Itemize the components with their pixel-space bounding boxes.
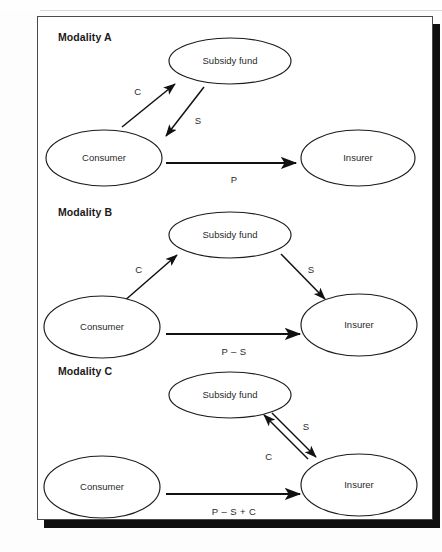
edge-label-a-c: C <box>134 86 141 97</box>
node-label-c-insurer: Insurer <box>344 479 374 490</box>
node-label-a-consumer: Consumer <box>82 152 126 163</box>
horizontal-rule <box>40 10 442 11</box>
node-label-b-consumer: Consumer <box>80 321 124 332</box>
node-c-consumer: Consumer <box>44 456 160 518</box>
edge-a-s <box>166 87 204 136</box>
edge-label-c-c: C <box>265 451 272 462</box>
edge-label-a-s: S <box>195 115 202 126</box>
node-label-a-subsidy: Subsidy fund <box>203 55 258 66</box>
edge-label-c-psc: P – S + C <box>212 506 256 517</box>
modality-diagram: Modality ACSPSubsidy fundConsumerInsurer… <box>38 17 432 519</box>
scanned-page: ·· ····· Modality ACSPSubsidy fundConsum… <box>0 0 442 552</box>
edge-label-a-p: P <box>231 174 238 185</box>
node-a-subsidy: Subsidy fund <box>169 38 291 84</box>
modality-group-a: Modality ACSPSubsidy fundConsumerInsurer <box>46 31 415 186</box>
node-label-b-subsidy: Subsidy fund <box>203 229 258 240</box>
modality-heading: Modality B <box>58 206 112 218</box>
node-c-insurer: Insurer <box>301 454 417 516</box>
node-b-consumer: Consumer <box>44 296 160 358</box>
node-label-a-insurer: Insurer <box>343 152 373 163</box>
edge-label-b-ps: P – S <box>221 346 246 357</box>
edge-c-s <box>272 413 316 457</box>
edge-a-c <box>122 84 175 127</box>
node-label-c-subsidy: Subsidy fund <box>203 389 258 400</box>
modality-heading: Modality A <box>58 31 112 43</box>
diagram-frame: Modality ACSPSubsidy fundConsumerInsurer… <box>37 16 433 520</box>
node-a-insurer: Insurer <box>301 130 415 186</box>
cut-off-header-text: ·· ····· <box>150 0 177 1</box>
modality-group-b: Modality BCSP – SSubsidy fundConsumerIns… <box>44 206 417 358</box>
edge-label-b-s: S <box>308 264 315 275</box>
edge-label-b-c: C <box>135 264 142 275</box>
node-a-consumer: Consumer <box>46 130 162 186</box>
edge-b-c <box>123 255 177 302</box>
node-label-c-consumer: Consumer <box>80 481 124 492</box>
node-b-subsidy: Subsidy fund <box>169 212 291 258</box>
modality-heading: Modality C <box>58 365 112 377</box>
node-label-b-insurer: Insurer <box>344 319 374 330</box>
edge-label-c-s: S <box>303 421 310 432</box>
edge-b-s <box>281 254 325 299</box>
node-b-insurer: Insurer <box>301 294 417 356</box>
modality-group-c: Modality CSCP – S + CSubsidy fundConsume… <box>44 365 417 518</box>
node-c-subsidy: Subsidy fund <box>169 372 291 418</box>
